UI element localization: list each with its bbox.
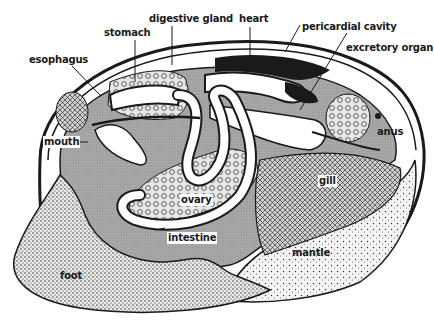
label-excretory-organ: excretory organ [345, 42, 434, 54]
anus-opening [375, 113, 381, 119]
label-mantle: mantle [292, 247, 330, 259]
label-pericardial-cavity: pericardial cavity [301, 21, 397, 33]
label-ovary: ovary [180, 194, 213, 206]
label-esophagus: esophagus [28, 54, 89, 66]
label-gill: gill [318, 175, 337, 187]
label-stomach: stomach [103, 27, 151, 39]
posterior-adductor [326, 94, 370, 142]
label-anus: anus [377, 126, 403, 138]
label-heart: heart [238, 13, 269, 25]
label-digestive-gland: digestive gland [148, 13, 234, 25]
label-mouth: mouth [43, 136, 80, 148]
label-foot: foot [60, 270, 82, 282]
label-intestine: intestine [167, 232, 217, 244]
anterior-adductor [56, 92, 88, 132]
